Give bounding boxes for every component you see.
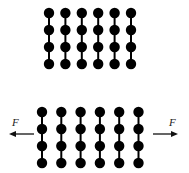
- bottom-bead: [75, 124, 85, 134]
- top-bead-grid: [44, 8, 136, 69]
- top-chain: [93, 8, 103, 69]
- bottom-bead: [133, 141, 143, 151]
- arrow-left-head-icon: [9, 131, 16, 137]
- bottom-bead: [114, 107, 124, 117]
- bottom-bead: [56, 107, 66, 117]
- bottom-chain: [56, 107, 66, 168]
- top-chain: [77, 8, 87, 69]
- top-bead: [93, 8, 103, 18]
- bottom-bead: [37, 158, 47, 168]
- top-bead: [44, 59, 54, 69]
- bottom-bead: [37, 124, 47, 134]
- top-bead: [109, 25, 119, 35]
- top-bead: [44, 42, 54, 52]
- arrow-right-head-icon: [171, 131, 178, 137]
- top-bead: [44, 25, 54, 35]
- bottom-chain: [114, 107, 124, 168]
- bottom-bead: [95, 141, 105, 151]
- bottom-bead: [133, 158, 143, 168]
- top-bead: [77, 59, 87, 69]
- force-right-label: F: [168, 116, 176, 128]
- bottom-chain: [95, 107, 105, 168]
- top-bead: [126, 25, 136, 35]
- force-arrow-left: F: [9, 116, 34, 137]
- bottom-bead: [56, 141, 66, 151]
- force-left-label: F: [11, 116, 19, 128]
- top-bead: [109, 42, 119, 52]
- bottom-bead: [133, 107, 143, 117]
- bottom-bead-grid: [37, 107, 144, 168]
- top-bead: [77, 42, 87, 52]
- force-arrow-right: F: [153, 116, 178, 137]
- bottom-chain: [75, 107, 85, 168]
- bottom-bead: [56, 158, 66, 168]
- bottom-bead: [56, 124, 66, 134]
- top-bead: [60, 8, 70, 18]
- bottom-bead: [95, 158, 105, 168]
- top-bead: [93, 42, 103, 52]
- bottom-bead: [75, 158, 85, 168]
- bottom-bead: [37, 107, 47, 117]
- top-bead: [109, 8, 119, 18]
- top-bead: [126, 42, 136, 52]
- bottom-chain: [133, 107, 143, 168]
- bottom-bead: [114, 124, 124, 134]
- top-bead: [60, 42, 70, 52]
- top-bead: [109, 59, 119, 69]
- top-chain: [60, 8, 70, 69]
- top-bead: [93, 25, 103, 35]
- bottom-bead: [37, 141, 47, 151]
- top-chain: [126, 8, 136, 69]
- top-bead: [126, 8, 136, 18]
- bottom-bead: [75, 107, 85, 117]
- bottom-bead: [114, 158, 124, 168]
- bottom-bead: [95, 124, 105, 134]
- bottom-bead: [133, 124, 143, 134]
- top-chain: [44, 8, 54, 69]
- bottom-bead: [95, 107, 105, 117]
- top-chain: [109, 8, 119, 69]
- top-bead: [93, 59, 103, 69]
- top-bead: [60, 25, 70, 35]
- bottom-chain: [37, 107, 47, 168]
- top-bead: [60, 59, 70, 69]
- top-bead: [77, 8, 87, 18]
- top-bead: [126, 59, 136, 69]
- top-bead: [77, 25, 87, 35]
- diagram-canvas: F F: [0, 0, 189, 173]
- top-bead: [44, 8, 54, 18]
- bottom-bead: [114, 141, 124, 151]
- bottom-bead: [75, 141, 85, 151]
